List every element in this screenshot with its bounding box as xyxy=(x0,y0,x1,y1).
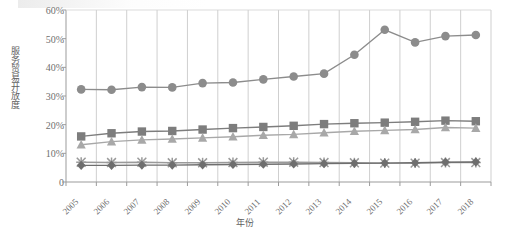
marker-diamond xyxy=(289,159,298,168)
marker-diamond xyxy=(229,160,238,169)
marker-circle xyxy=(168,83,177,92)
marker-circle xyxy=(107,85,116,94)
marker-circle xyxy=(411,38,420,47)
service-trade-openness-chart: 服务贸易开放度 年份 60%50%40%30%20%10%0 200520062… xyxy=(0,0,515,236)
marker-square xyxy=(320,120,328,128)
marker-square xyxy=(350,119,358,127)
marker-circle xyxy=(229,78,238,87)
marker-square xyxy=(229,124,237,132)
marker-circle xyxy=(198,79,207,88)
marker-square xyxy=(259,123,267,131)
marker-circle xyxy=(138,83,147,92)
marker-circle xyxy=(380,25,389,34)
marker-diamond xyxy=(198,160,207,169)
marker-square xyxy=(411,118,419,126)
marker-square xyxy=(138,127,146,135)
marker-circle xyxy=(441,32,450,41)
marker-circle xyxy=(259,75,268,84)
plot-area xyxy=(0,0,515,236)
marker-circle xyxy=(320,69,329,78)
marker-square xyxy=(77,132,85,140)
marker-square xyxy=(198,125,206,133)
marker-circle xyxy=(472,31,481,40)
marker-diamond xyxy=(168,160,177,169)
marker-diamond xyxy=(259,160,268,169)
marker-square xyxy=(168,127,176,135)
marker-circle xyxy=(289,72,298,81)
marker-circle xyxy=(77,85,86,94)
marker-circle xyxy=(350,50,359,59)
marker-square xyxy=(107,129,115,137)
marker-square xyxy=(289,122,297,130)
